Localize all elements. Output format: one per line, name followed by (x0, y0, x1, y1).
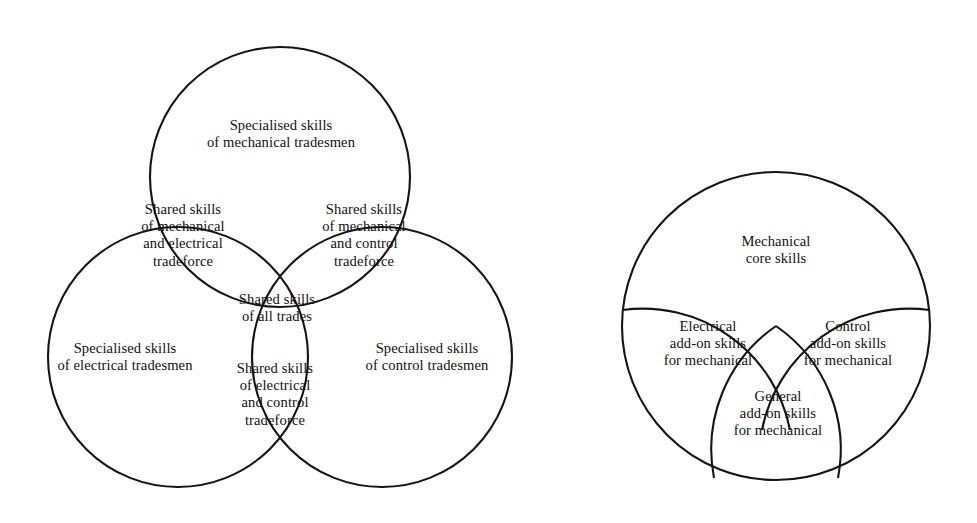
left-venn-circles (48, 47, 512, 487)
skills-venn-figure: Specialised skills of mechanical tradesm… (0, 0, 977, 523)
circle-control (252, 227, 512, 487)
right-circle-group (622, 172, 930, 480)
circle-electrical (48, 227, 308, 487)
diagram-canvas (0, 0, 977, 523)
circle-mechanical (150, 47, 410, 307)
